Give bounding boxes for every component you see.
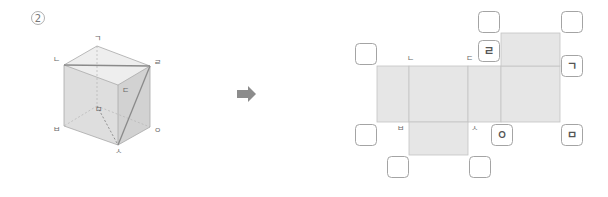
box-bottom-sq-right[interactable] — [470, 157, 491, 178]
net-faces — [377, 33, 560, 155]
answer-box-value: ㄹ — [484, 45, 494, 58]
box-top-left[interactable] — [356, 44, 377, 65]
net-vertex-label: ㅅ — [471, 124, 478, 133]
net-left-face — [377, 66, 409, 122]
answer-box-value: ㅁ — [567, 129, 577, 142]
answer-box-frame[interactable] — [356, 125, 377, 146]
net-vertex-label: ㄴ — [407, 54, 414, 63]
cube-net: ㄴㄷㅂㅅ ㄹㄱㅇㅁ — [356, 12, 583, 178]
cube-vertex-label: ㅇ — [154, 126, 161, 135]
net-vertex-label: ㅂ — [397, 124, 404, 133]
box-r[interactable]: ㄹ — [479, 41, 500, 62]
cube-vertex-label: ㅂ — [53, 125, 60, 134]
problem-number-label: 2 — [35, 13, 41, 24]
cube-vertex-label: ㅁ — [95, 105, 102, 114]
answer-box-frame[interactable] — [562, 12, 583, 33]
net-bottom-face — [409, 122, 468, 155]
problem-number: 2 — [32, 12, 45, 25]
box-bottom-left[interactable] — [356, 125, 377, 146]
box-m[interactable]: ㅁ — [562, 125, 583, 146]
cube-vertex-label: ㄴ — [53, 55, 60, 64]
right-arrow-icon — [237, 86, 256, 102]
net-vertex-label: ㄷ — [466, 54, 473, 63]
box-top-right[interactable] — [562, 12, 583, 33]
answer-box-frame[interactable] — [479, 12, 500, 33]
net-top-face — [501, 33, 560, 66]
net-front-face — [409, 66, 468, 122]
cube-vertex-label: ㄹ — [154, 58, 161, 67]
answer-box-frame[interactable] — [470, 157, 491, 178]
cube-vertex-label: ㅅ — [115, 147, 122, 156]
cube-vertex-label: ㄱ — [94, 34, 101, 43]
cube-vertex-label: ㄷ — [122, 86, 129, 95]
net-back-face — [501, 66, 560, 122]
box-bottom-sq-left[interactable] — [388, 157, 409, 178]
answer-box-value: ㅇ — [497, 129, 507, 142]
arrow-shape — [237, 86, 256, 102]
answer-box-value: ㄱ — [567, 60, 577, 73]
answer-box-frame[interactable] — [388, 157, 409, 178]
box-upper-mid[interactable] — [479, 12, 500, 33]
net-right-face — [468, 66, 501, 122]
answer-box-frame[interactable] — [356, 44, 377, 65]
box-o[interactable]: ㅇ — [492, 125, 513, 146]
cube-figure: ㄱㄴㄹㄷㅁㅂㅇㅅ — [53, 34, 161, 156]
box-g[interactable]: ㄱ — [562, 56, 583, 77]
figure-canvas: 2 ㄱㄴㄹㄷㅁㅂㅇㅅ ㄴㄷㅂㅅ ㄹㄱㅇㅁ — [0, 0, 608, 197]
